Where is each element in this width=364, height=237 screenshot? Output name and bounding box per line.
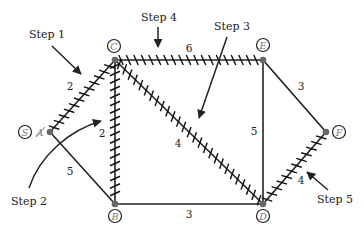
weight-e-d: 5 bbox=[251, 125, 258, 137]
weight-a-c: 2 bbox=[67, 80, 74, 92]
step-3-label: Step 3 bbox=[214, 20, 250, 33]
node-c-dot bbox=[112, 57, 119, 64]
graph-diagram: 2 5 2 6 4 5 3 3 4 S A C E bbox=[0, 0, 364, 237]
edge-a-c bbox=[50, 60, 115, 132]
step-2-label: Step 2 bbox=[11, 195, 47, 208]
weight-c-b: 2 bbox=[99, 127, 106, 139]
weight-a-b: 5 bbox=[67, 165, 74, 177]
step-5-label: Step 5 bbox=[317, 193, 353, 206]
step-4-label: Step 4 bbox=[141, 11, 177, 24]
svg-text:E: E bbox=[259, 40, 267, 51]
step-1-label: Step 1 bbox=[29, 28, 65, 41]
weight-c-e: 6 bbox=[186, 42, 193, 54]
step-3-arrow bbox=[199, 37, 227, 118]
node-f-label: F bbox=[333, 126, 346, 139]
node-s-label: S bbox=[19, 126, 32, 139]
node-d-dot bbox=[260, 201, 267, 208]
weight-d-f: 4 bbox=[298, 174, 305, 186]
node-e-dot bbox=[260, 57, 267, 64]
svg-text:C: C bbox=[110, 41, 118, 52]
node-b-dot bbox=[112, 201, 119, 208]
step-1-arrow bbox=[52, 46, 81, 74]
node-e-label: E bbox=[257, 39, 270, 52]
step-5-arrow bbox=[307, 172, 328, 190]
node-c-label: C bbox=[108, 40, 121, 53]
node-b-label: B bbox=[109, 210, 122, 223]
weight-b-d: 3 bbox=[186, 208, 193, 220]
svg-text:B: B bbox=[111, 211, 119, 222]
svg-text:S: S bbox=[22, 127, 29, 138]
svg-text:F: F bbox=[335, 127, 343, 138]
node-a-dot bbox=[47, 129, 54, 136]
weight-c-d: 4 bbox=[175, 137, 182, 149]
node-d-label: D bbox=[257, 210, 270, 223]
edge-e-f bbox=[263, 60, 326, 132]
weight-e-f: 3 bbox=[298, 80, 305, 92]
node-a-label: A bbox=[36, 127, 45, 138]
svg-text:D: D bbox=[258, 211, 267, 222]
node-f-dot bbox=[323, 129, 330, 136]
